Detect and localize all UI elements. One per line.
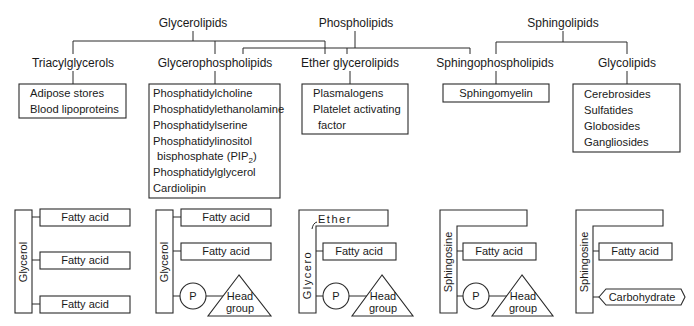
svg-text:Glycerol: Glycerol: [17, 242, 29, 282]
svg-text:group: group: [509, 302, 537, 314]
lipid-classification-diagram: Glycerolipids Phospholipids Sphingolipid…: [0, 0, 694, 326]
svg-text:Fatty acid: Fatty acid: [611, 245, 659, 257]
subclass-triacylglycerols: Triacylglycerols: [32, 56, 114, 70]
example-item: Plasmalogens: [313, 87, 384, 99]
triacylglycerol-structure: Glycerol Fatty acid Fatty acid Fatty aci…: [15, 209, 130, 313]
example-item: Gangliosides: [584, 136, 649, 148]
svg-text:P: P: [332, 290, 339, 302]
svg-text:Glycero: Glycero: [301, 251, 313, 299]
example-item: Phosphatidylcholine: [153, 87, 253, 99]
svg-text:Head: Head: [227, 290, 253, 302]
category-glycerolipids: Glycerolipids: [159, 16, 228, 30]
svg-text:P: P: [472, 290, 479, 302]
example-item: Blood lipoproteins: [30, 103, 119, 115]
svg-text:Head: Head: [370, 290, 396, 302]
svg-text:Fatty acid: Fatty acid: [61, 211, 109, 223]
glycerophospholipids-examples-box: Phosphatidylcholine Phosphatidylethanola…: [149, 84, 284, 198]
svg-text:Glycerol: Glycerol: [158, 242, 170, 282]
svg-text:group: group: [369, 302, 397, 314]
glycolipid-structure: Sphingosine Fatty acid Carbohydrate: [576, 210, 685, 313]
example-item: Cerebrosides: [584, 88, 651, 100]
svg-text:Fatty acid: Fatty acid: [335, 245, 383, 257]
subclass-sphingophospholipids: Sphingophospholipids: [436, 56, 553, 70]
svg-text:Fatty acid: Fatty acid: [202, 211, 250, 223]
subclass-glycolipids: Glycolipids: [598, 56, 656, 70]
sphingophospholipids-examples-box: Sphingomyelin: [443, 84, 549, 102]
example-item: factor: [318, 119, 346, 131]
glycerophospholipid-structure: Glycerol Fatty acid Fatty acid P Head gr…: [156, 209, 271, 316]
example-item: Sulfatides: [584, 104, 634, 116]
example-item: Platelet activating: [313, 103, 401, 115]
subclass-glycerophospholipids: Glycerophospholipids: [158, 56, 273, 70]
example-item: Adipose stores: [30, 87, 104, 99]
glycolipids-examples-box: Cerebrosides Sulfatides Globosides Gangl…: [573, 84, 680, 152]
example-item: Phosphatidylinositol: [153, 135, 252, 147]
ether-glycerolipids-examples-box: Plasmalogens Platelet activating factor: [302, 84, 408, 134]
svg-text:Carbohydrate: Carbohydrate: [609, 291, 676, 303]
svg-text:P: P: [189, 290, 196, 302]
svg-text:Sphingosine: Sphingosine: [578, 232, 590, 293]
example-item: Phosphatidylserine: [153, 119, 248, 131]
svg-text:Ether: Ether: [318, 213, 352, 225]
svg-text:Head: Head: [510, 290, 536, 302]
subclass-ether-glycerolipids: Ether glycerolipids: [301, 56, 399, 70]
category-phospholipids: Phospholipids: [319, 16, 394, 30]
example-item: Phosphatidylethanolamine: [153, 103, 284, 115]
svg-text:Fatty acid: Fatty acid: [61, 298, 109, 310]
triacylglycerols-examples-box: Adipose stores Blood lipoproteins: [19, 84, 126, 118]
svg-text:Fatty acid: Fatty acid: [202, 245, 250, 257]
example-item: Sphingomyelin: [459, 87, 532, 99]
category-sphingolipids: Sphingolipids: [527, 16, 598, 30]
svg-text:group: group: [226, 302, 254, 314]
sphingolipids-connector: [496, 31, 627, 54]
example-item: Globosides: [584, 120, 640, 132]
example-item: Phosphatidylglycerol: [153, 166, 256, 178]
glycerolipids-connector: [73, 31, 325, 54]
svg-text:Fatty acid: Fatty acid: [475, 245, 523, 257]
svg-text:Sphingosine: Sphingosine: [442, 232, 454, 293]
sphingophospholipid-structure: Sphingosine Fatty acid P Head group: [440, 210, 553, 316]
ether-glycerolipid-structure: Glycero Ether Fatty acid P Head group: [299, 210, 413, 316]
example-item: Cardiolipin: [153, 182, 206, 194]
phospholipids-connector: [243, 31, 470, 54]
svg-text:Fatty acid: Fatty acid: [61, 254, 109, 266]
